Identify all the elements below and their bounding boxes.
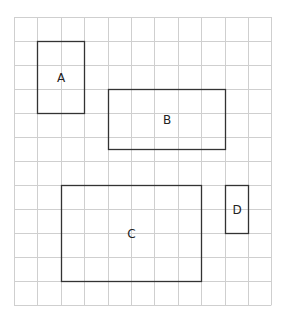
rectangle-b: B	[109, 90, 226, 150]
rectangle-label: B	[163, 113, 171, 127]
rectangle-label: D	[232, 203, 241, 217]
grid-diagram: ABCD	[0, 0, 283, 320]
grid-lines	[14, 17, 272, 306]
rectangle-label: C	[127, 227, 135, 241]
rectangle-label: A	[57, 71, 66, 85]
